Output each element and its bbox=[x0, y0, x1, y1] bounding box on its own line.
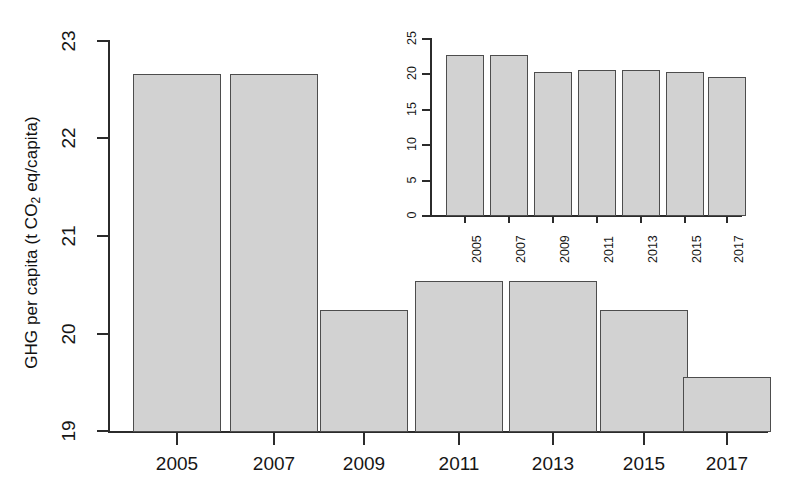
inset-y-tick-25 bbox=[422, 38, 430, 40]
main-y-tick-label-21: 21 bbox=[58, 214, 80, 258]
inset-x-tick-2007 bbox=[508, 216, 510, 223]
bar-2013 bbox=[509, 281, 597, 432]
inset-y-tick-label-15: 15 bbox=[405, 94, 419, 124]
bar-2007 bbox=[230, 74, 318, 432]
inset-bar-2007 bbox=[490, 55, 528, 216]
inset-y-tick-15 bbox=[422, 109, 430, 111]
inset-y-tick-20 bbox=[422, 73, 430, 75]
inset-y-tick-5 bbox=[422, 180, 430, 182]
inset-y-tick-0 bbox=[422, 215, 430, 217]
inset-bar-2009 bbox=[534, 72, 572, 216]
main-x-tick-2013 bbox=[552, 433, 554, 445]
main-y-tick-19 bbox=[97, 430, 108, 432]
main-y-tick-21 bbox=[97, 235, 108, 237]
main-y-axis-title: GHG per capita (t CO2 eq/capita) bbox=[22, 63, 43, 423]
inset-x-tick-2017 bbox=[726, 216, 728, 223]
bar-2009 bbox=[320, 310, 408, 432]
inset-x-tick-2015 bbox=[684, 216, 686, 223]
inset-bar-2011 bbox=[578, 70, 616, 216]
main-x-tick-label-2013: 2013 bbox=[508, 453, 598, 475]
main-x-tick-2009 bbox=[363, 433, 365, 445]
main-x-tick-2015 bbox=[643, 433, 645, 445]
main-y-axis-line bbox=[108, 40, 110, 432]
main-y-tick-23 bbox=[97, 40, 108, 42]
inset-x-tick-2011 bbox=[596, 216, 598, 223]
inset-bar-chart: 25 20 15 10 5 0 2005 2007 2009 2011 2013 bbox=[398, 18, 778, 280]
bar-2005 bbox=[133, 74, 221, 432]
main-x-tick-label-2009: 2009 bbox=[319, 453, 409, 475]
main-y-tick-label-20: 20 bbox=[58, 312, 80, 356]
inset-y-tick-label-0: 0 bbox=[405, 200, 419, 230]
main-x-tick-label-2005: 2005 bbox=[132, 453, 222, 475]
inset-x-tick-2005 bbox=[464, 216, 466, 223]
bar-2011 bbox=[415, 281, 503, 432]
figure-container: GHG per capita (t CO2 eq/capita) 23 22 2… bbox=[0, 0, 789, 496]
inset-y-tick-label-25: 25 bbox=[405, 23, 419, 53]
inset-x-tick-label-2007: 2007 bbox=[514, 235, 528, 263]
inset-bar-2013 bbox=[622, 70, 660, 216]
main-x-tick-2011 bbox=[458, 433, 460, 445]
main-x-tick-label-2011: 2011 bbox=[414, 453, 504, 475]
main-y-axis-title-post: eq/capita) bbox=[22, 116, 41, 196]
inset-bar-2017 bbox=[708, 77, 746, 216]
inset-x-tick-label-2013: 2013 bbox=[646, 235, 660, 263]
bar-2017 bbox=[683, 377, 771, 432]
scan-crop-artifact: ............ bbox=[0, 486, 789, 496]
inset-y-tick-label-5: 5 bbox=[405, 165, 419, 195]
main-x-tick-2017 bbox=[726, 433, 728, 445]
inset-x-tick-label-2009: 2009 bbox=[558, 235, 572, 263]
inset-x-tick-2009 bbox=[552, 216, 554, 223]
inset-bar-2015 bbox=[666, 72, 704, 216]
main-y-tick-label-19: 19 bbox=[58, 409, 80, 453]
inset-bar-2005 bbox=[446, 55, 484, 216]
main-x-tick-label-2007: 2007 bbox=[229, 453, 319, 475]
inset-x-tick-2013 bbox=[640, 216, 642, 223]
main-y-tick-label-23: 23 bbox=[58, 19, 80, 63]
main-y-tick-label-22: 22 bbox=[58, 116, 80, 160]
main-x-tick-2005 bbox=[176, 433, 178, 445]
main-y-tick-22 bbox=[97, 137, 108, 139]
main-x-tick-label-2017: 2017 bbox=[682, 453, 772, 475]
inset-y-tick-label-10: 10 bbox=[405, 129, 419, 159]
bar-2015 bbox=[600, 310, 688, 432]
main-x-tick-2007 bbox=[273, 433, 275, 445]
inset-y-tick-label-20: 20 bbox=[405, 58, 419, 88]
main-y-axis-title-pre: GHG per capita (t CO bbox=[22, 203, 41, 368]
main-y-axis-title-sub: 2 bbox=[29, 197, 43, 204]
inset-x-tick-label-2005: 2005 bbox=[470, 235, 484, 263]
main-y-tick-20 bbox=[97, 333, 108, 335]
inset-x-tick-label-2011: 2011 bbox=[602, 236, 616, 263]
inset-y-axis-line bbox=[430, 38, 432, 216]
inset-x-tick-label-2017: 2017 bbox=[732, 235, 746, 263]
inset-x-tick-label-2015: 2015 bbox=[690, 235, 704, 263]
inset-y-tick-10 bbox=[422, 144, 430, 146]
main-x-tick-label-2015: 2015 bbox=[599, 453, 689, 475]
